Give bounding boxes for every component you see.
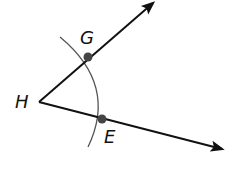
label-h: H — [15, 93, 29, 111]
ray-he — [39, 102, 222, 149]
label-g: G — [80, 29, 94, 47]
compass-arc — [60, 37, 98, 147]
point-g — [84, 53, 93, 62]
diagram-canvas: H G E — [0, 0, 231, 170]
label-e: E — [104, 128, 115, 146]
point-e — [98, 115, 107, 124]
angle-diagram — [0, 0, 231, 170]
